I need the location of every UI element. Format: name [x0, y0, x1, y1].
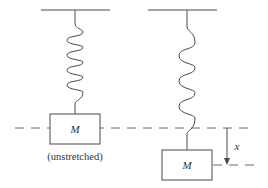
left-system: M (unstretched) — [41, 10, 110, 163]
left-spring — [67, 10, 83, 114]
right-mass-label: M — [181, 159, 192, 171]
displacement-label: x — [234, 140, 240, 152]
left-mass-label: M — [69, 123, 80, 135]
right-spring — [179, 10, 195, 150]
spring-mass-diagram: M (unstretched) M x — [0, 0, 268, 188]
right-system: M — [148, 10, 217, 180]
arrow-head-icon — [224, 158, 230, 165]
unstretched-caption: (unstretched) — [47, 151, 103, 163]
displacement-arrow: x — [224, 128, 240, 165]
